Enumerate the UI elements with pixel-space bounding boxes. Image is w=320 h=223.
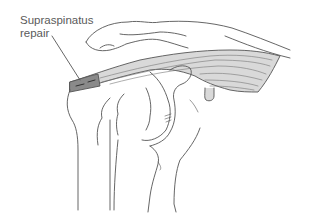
humeral-head <box>67 72 170 210</box>
scapula-outline <box>148 66 200 212</box>
label-repair: repair <box>20 27 49 40</box>
supraspinatus-tendon <box>70 50 280 101</box>
repair-site <box>70 74 100 92</box>
label-supraspinatus: Supraspinatus <box>20 14 94 27</box>
humeral-shaft <box>110 120 118 210</box>
label-leader-line <box>52 36 80 80</box>
